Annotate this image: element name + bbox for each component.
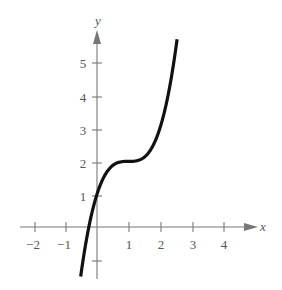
y-axis-arrow-icon xyxy=(93,30,101,44)
y-tick-label: 4 xyxy=(80,90,87,105)
y-tick-label: 2 xyxy=(80,156,87,171)
x-tick-label: −1 xyxy=(57,237,71,252)
y-axis-label: y xyxy=(93,13,101,28)
y-axis: 5 4 3 2 1 y xyxy=(80,13,102,279)
x-tick-label: 1 xyxy=(126,237,133,252)
y-tick-label: 3 xyxy=(80,123,87,138)
y-tick-label: 5 xyxy=(80,56,87,71)
x-axis-label: x xyxy=(259,219,266,234)
x-axis-arrow-icon xyxy=(244,223,258,231)
x-axis: −2 −1 1 2 3 4 x xyxy=(20,219,266,252)
x-tick-label: 4 xyxy=(221,237,228,252)
x-tick-label: 3 xyxy=(190,237,197,252)
x-tick-label: −2 xyxy=(26,237,40,252)
x-tick-label: 2 xyxy=(158,237,165,252)
y-tick-label: 1 xyxy=(80,189,87,204)
function-graph: −2 −1 1 2 3 4 x 5 4 3 2 1 y xyxy=(0,0,282,290)
